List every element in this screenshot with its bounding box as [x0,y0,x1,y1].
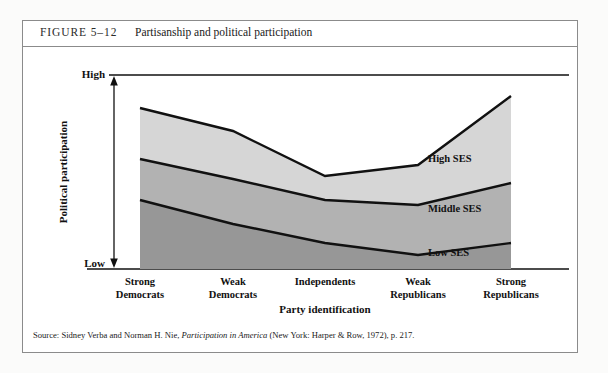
series-label-high-ses: High SES [428,153,472,164]
figure-title: Partisanship and political participation [135,26,312,38]
source-note: Source: Sidney Verba and Norman H. Nie, … [33,330,415,340]
x-axis-category-label-line2: Republicans [483,289,538,300]
x-axis-category-label-line2: Republicans [390,289,445,300]
source-title: Participation in America [182,330,268,340]
series-label-middle-ses: Middle SES [428,203,482,214]
x-axis-category-label: Weak [405,276,431,287]
x-axis-category-label: Strong [125,276,156,287]
figure-frame: FIGURE 5–12 Partisanship and political p… [22,20,578,353]
page-background: FIGURE 5–12 Partisanship and political p… [0,0,608,373]
figure-number: FIGURE 5–12 [40,26,117,38]
stacked-area-chart: High Low Political participation High SE… [23,47,579,353]
y-axis-arrow [110,76,118,268]
y-axis-low-label: Low [84,257,105,269]
source-prefix: Source: Sidney Verba and Norman H. Nie, [33,330,182,340]
series-label-low-ses: Low SES [428,247,469,258]
x-axis-title: Party identification [279,303,370,315]
x-axis-category-label: Strong [496,276,527,287]
y-axis-high-label: High [82,68,105,80]
x-axis-category-label: Weak [220,276,246,287]
figure-header: FIGURE 5–12 Partisanship and political p… [23,21,577,47]
source-suffix: (New York: Harper & Row, 1972), p. 217. [267,330,414,340]
x-axis-category-label-line2: Democrats [116,289,164,300]
x-axis-category-label: Independents [295,276,356,287]
x-axis-category-label-line2: Democrats [209,289,257,300]
y-axis-title: Political participation [57,121,69,223]
chart-area: High Low Political participation High SE… [23,47,579,353]
